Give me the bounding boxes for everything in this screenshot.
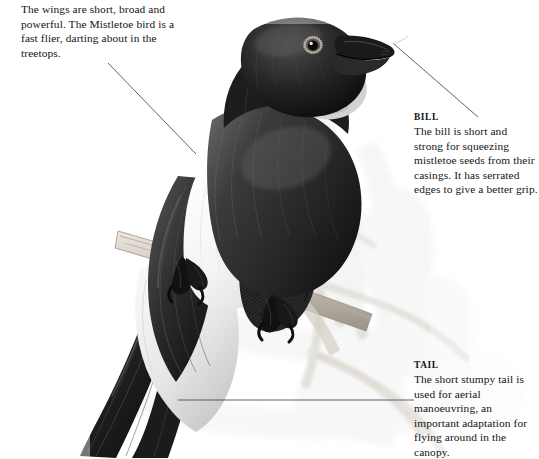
figure-page: The wings are short, broad and powerful.…: [0, 0, 539, 459]
annotation-wings-body: The wings are short, broad and powerful.…: [21, 2, 179, 60]
annotation-bill: BILL The bill is short and strong for sq…: [414, 111, 538, 197]
annotation-bill-heading: BILL: [414, 111, 538, 124]
annotation-wings: The wings are short, broad and powerful.…: [21, 2, 179, 60]
annotation-tail-body: The short stumpy tail is used for aerial…: [414, 372, 538, 459]
annotation-bill-body: The bill is short and strong for squeezi…: [414, 124, 538, 197]
annotation-tail: TAIL The short stumpy tail is used for a…: [414, 359, 538, 459]
annotation-tail-heading: TAIL: [414, 359, 538, 372]
